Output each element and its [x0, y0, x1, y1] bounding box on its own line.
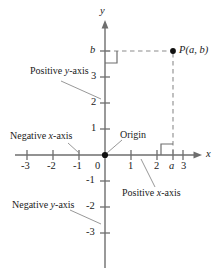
callout-negative-x-axis-suffix: -axis — [53, 130, 72, 141]
callout-negative-y-axis: Negative y-axis — [12, 200, 75, 210]
y-tick-label-neg3: -3 — [86, 227, 95, 238]
x-axis-arrowhead — [194, 152, 203, 159]
x-axis-group — [15, 152, 202, 159]
y-tick-label-2: 2 — [91, 97, 96, 108]
y-axis-label: y — [100, 6, 105, 17]
right-angle-at-y-axis-icon — [105, 51, 117, 63]
leader-line-negative-y-axis — [70, 210, 101, 224]
y-tick-label-neg1: -1 — [86, 175, 95, 186]
callout-origin-text: Origin — [120, 129, 146, 140]
leader-line-negative-x-axis — [68, 143, 79, 153]
x-tick-label-a: a — [169, 161, 174, 172]
callout-positive-y-axis-suffix: -axis — [69, 65, 88, 76]
x-tick-label-neg1: -1 — [73, 161, 82, 172]
point-P-label-text: P(a, b) — [179, 44, 208, 55]
y-tick-label-neg2: -2 — [86, 201, 95, 212]
coordinate-plane-figure: y x -3 -2 -1 0 1 2 3 a b 3 2 1 -1 -2 -3 … — [0, 0, 221, 273]
callout-negative-x-axis-prefix: Negative — [10, 130, 49, 141]
y-tick-label-b: b — [90, 45, 95, 56]
leader-line-origin — [107, 140, 122, 153]
callout-negative-x-axis: Negative x-axis — [10, 131, 73, 141]
x-tick-label-2: 2 — [154, 161, 159, 172]
callout-positive-y-axis: Positive y-axis — [30, 66, 89, 76]
point-P-label: P(a, b) — [179, 45, 208, 56]
x-tick-label-neg2: -2 — [47, 161, 56, 172]
callout-negative-y-axis-prefix: Negative — [12, 199, 51, 210]
y-axis-group — [102, 20, 109, 268]
callout-positive-x-axis-prefix: Positive — [122, 187, 157, 198]
y-axis-arrowhead — [102, 20, 109, 29]
callout-positive-y-axis-prefix: Positive — [30, 65, 65, 76]
y-tick-label-3: 3 — [91, 71, 96, 82]
callout-origin: Origin — [120, 130, 146, 140]
callout-positive-x-axis: Positive x-axis — [122, 188, 181, 198]
x-tick-label-3: 3 — [181, 161, 186, 172]
callout-positive-x-axis-suffix: -axis — [161, 187, 180, 198]
x-axis-label: x — [206, 149, 211, 160]
right-angle-at-x-axis-icon — [161, 144, 173, 155]
leader-line-positive-x-axis — [141, 159, 155, 187]
point-P-dot — [170, 48, 176, 54]
y-tick-label-1: 1 — [91, 123, 96, 134]
x-tick-label-0: 0 — [95, 161, 100, 172]
x-tick-label-neg3: -3 — [21, 161, 30, 172]
x-tick-label-1: 1 — [128, 161, 133, 172]
callout-negative-y-axis-suffix: -axis — [55, 199, 74, 210]
